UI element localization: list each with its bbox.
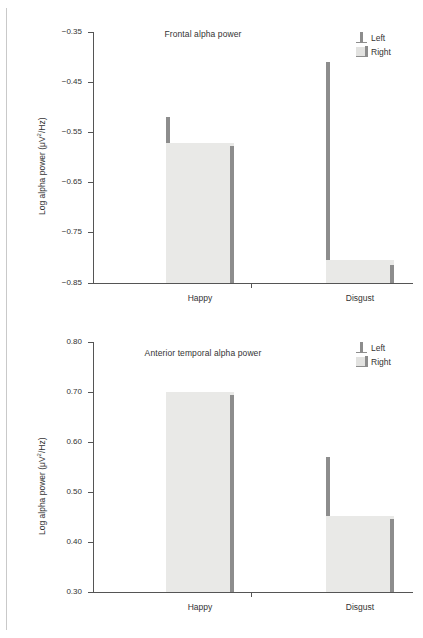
- bar-left-disgust-frontal: [326, 62, 330, 283]
- y-axis-label-suffix: /Hz): [37, 437, 47, 453]
- y-tick-label: 0.80: [50, 337, 82, 346]
- y-tick-label: 0.50: [50, 487, 82, 496]
- y-axis-label-frontal: Log alpha power (μV2/Hz): [36, 117, 47, 215]
- bar-right-disgust-frontal: [326, 260, 394, 283]
- bar-right-edge-disgust-frontal: [390, 265, 394, 283]
- x-axis-mid-tick: [251, 283, 252, 288]
- y-tick-label: −0.65: [48, 177, 82, 186]
- y-tick-label: 0.70: [50, 387, 82, 396]
- legend-swatch-right-base-icon: [356, 56, 368, 57]
- legend-swatch-right-base-icon: [356, 366, 368, 367]
- legend-label-left: Left: [371, 342, 385, 354]
- bar-right-edge-happy-frontal: [230, 146, 234, 283]
- bar-right-edge-happy-anterior-temporal: [230, 395, 234, 592]
- chart-title-frontal: Frontal alpha power: [164, 29, 241, 39]
- y-tick-label: −0.85: [48, 278, 82, 287]
- legend-label-right: Right: [371, 46, 391, 58]
- x-axis-line-anterior-temporal: [93, 592, 413, 593]
- x-tick-label-happy-anterior-temporal: Happy: [165, 602, 235, 612]
- y-tick-label: −0.35: [48, 27, 82, 36]
- y-tick-label: −0.45: [48, 77, 82, 86]
- y-axis-line-frontal: [93, 32, 94, 284]
- y-tick-label: −0.75: [48, 227, 82, 236]
- y-tick-label: 0.30: [50, 587, 82, 596]
- chart-panel-frontal: Frontal alpha power Log alpha power (μV2…: [0, 0, 423, 320]
- legend-label-left: Left: [371, 32, 385, 44]
- figure-page: Frontal alpha power Log alpha power (μV2…: [0, 0, 423, 638]
- bar-right-disgust-anterior-temporal: [326, 516, 394, 592]
- chart-title-anterior-temporal: Anterior temporal alpha power: [145, 348, 262, 358]
- x-axis-line-frontal: [93, 283, 413, 284]
- chart-panel-anterior-temporal: Anterior temporal alpha power Log alpha …: [0, 320, 423, 638]
- x-tick-label-disgust-frontal: Disgust: [325, 293, 395, 303]
- legend-swatch-left-base-icon: [356, 352, 367, 353]
- x-axis-mid-tick: [251, 592, 252, 597]
- y-axis-label-suffix: /Hz): [37, 117, 47, 133]
- y-tick-label: 0.40: [50, 537, 82, 546]
- y-axis-label-text: Log alpha power (μV: [37, 456, 47, 535]
- y-axis-line-anterior-temporal: [93, 342, 94, 593]
- legend-swatch-left-base-icon: [356, 42, 367, 43]
- bar-right-happy-frontal: [166, 143, 234, 283]
- x-tick-label-disgust-anterior-temporal: Disgust: [325, 602, 395, 612]
- y-tick-label: 0.60: [50, 437, 82, 446]
- bar-right-happy-anterior-temporal: [166, 392, 234, 592]
- y-axis-label-exponent: 2: [36, 453, 42, 456]
- bar-right-edge-disgust-anterior-temporal: [390, 519, 394, 592]
- x-tick-label-happy-frontal: Happy: [165, 293, 235, 303]
- y-axis-label-exponent: 2: [36, 133, 42, 136]
- y-axis-label-anterior-temporal: Log alpha power (μV2/Hz): [36, 437, 47, 535]
- legend-label-right: Right: [371, 356, 391, 368]
- y-tick-label: −0.55: [48, 127, 82, 136]
- y-axis-label-text: Log alpha power (μV: [37, 136, 47, 215]
